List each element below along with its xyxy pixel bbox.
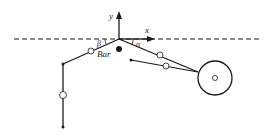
right-lower-start-point — [130, 59, 133, 62]
bar-label: Bar — [97, 49, 111, 59]
diagram-canvas: y x α β Bar — [0, 0, 272, 134]
right-lower-link-marker — [163, 63, 169, 69]
bar-mass-point — [116, 46, 122, 52]
top-joint-point — [62, 63, 65, 66]
y-axis-label: y — [108, 11, 113, 21]
wheel-hub — [213, 76, 218, 81]
beta-angle-arc — [105, 39, 106, 44]
x-axis-label: x — [144, 25, 149, 35]
right-upper-link-marker — [157, 52, 163, 58]
left-arm-joint-marker — [88, 48, 94, 54]
x-axis-arrow-icon — [147, 36, 155, 42]
beta-label: β — [96, 39, 101, 48]
bottom-joint-point — [62, 126, 65, 129]
mechanism-diagram: y x α β Bar — [0, 0, 272, 134]
vertical-link-marker — [60, 92, 67, 99]
y-axis-arrow-icon — [116, 11, 122, 19]
